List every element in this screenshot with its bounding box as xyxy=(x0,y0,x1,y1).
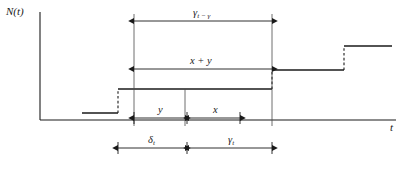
residual-x-label: x xyxy=(210,105,221,116)
y-axis-label: N(t) xyxy=(6,6,24,17)
axes-group xyxy=(40,12,396,120)
renewal-process-figure: N(t) t γt − γ x + y y x δt γt xyxy=(0,0,409,169)
dimension-arrows-group xyxy=(118,21,272,154)
age-delta-t-label: δt xyxy=(145,135,158,147)
residual-gamma-t-label: γt xyxy=(225,135,237,147)
gamma-t-subscript: t xyxy=(232,139,234,147)
step-function-path xyxy=(82,46,392,113)
delta-subscript: t xyxy=(153,139,155,147)
x-axis-label: t xyxy=(390,122,393,133)
gamma-subscript: t − γ xyxy=(197,12,210,20)
total-life-top-label: γt − γ xyxy=(190,8,213,20)
age-y-label: y xyxy=(155,105,166,116)
total-life-xy-label: x + y xyxy=(187,56,215,67)
figure-canvas xyxy=(0,0,409,169)
